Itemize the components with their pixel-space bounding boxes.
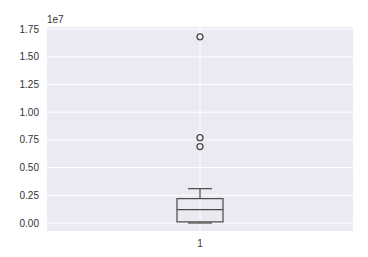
- y-tick-label: 0.75: [20, 134, 40, 145]
- y-tick-label: 1.25: [20, 79, 40, 90]
- y-axis-offset-label: 1e7: [47, 14, 64, 25]
- x-axis-ticks: 1: [197, 238, 203, 249]
- y-tick-label: 0.00: [20, 218, 40, 229]
- x-tick-label: 1: [197, 238, 203, 249]
- y-tick-label: 1.75: [20, 24, 40, 35]
- y-axis-ticks: 0.000.250.500.751.001.251.501.75: [20, 24, 40, 229]
- y-tick-label: 0.25: [20, 190, 40, 201]
- y-tick-label: 0.50: [20, 162, 40, 173]
- box-plot-chart: 0.000.250.500.751.001.251.501.75 1e7 1: [0, 0, 368, 257]
- y-tick-label: 1.00: [20, 107, 40, 118]
- y-tick-label: 1.50: [20, 51, 40, 62]
